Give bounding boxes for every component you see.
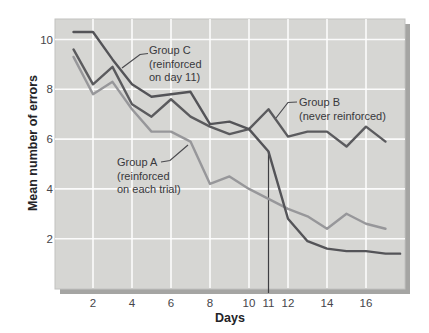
- x-axis-title: Days: [215, 311, 245, 325]
- y-tick-label: 10: [40, 34, 53, 46]
- y-tick-labels: 246810: [40, 34, 53, 245]
- chart-svg: 246810 24681011121416: [0, 0, 429, 333]
- x-tick-label: 16: [360, 297, 373, 309]
- x-tick-label: 4: [129, 297, 136, 309]
- tolman-latent-learning-figure: 246810 24681011121416 Mean number of err…: [0, 0, 429, 333]
- x-tick-label: 14: [321, 297, 334, 309]
- x-tick-label: 2: [90, 297, 96, 309]
- group-c-annotation-line: Group C: [149, 44, 202, 58]
- group-b-annotation: Group B (never reinforced): [299, 96, 386, 123]
- x-tick-label: 10: [243, 297, 256, 309]
- y-tick-label: 8: [47, 83, 53, 95]
- x-tick-labels: 24681011121416: [90, 297, 373, 309]
- x-tick-label: 6: [168, 297, 174, 309]
- group-b-annotation-line: Group B: [299, 96, 386, 110]
- group-a-annotation-line: (reinforced: [117, 170, 181, 184]
- x-tick-label: 12: [282, 297, 295, 309]
- x-tick-label: 8: [207, 297, 213, 309]
- y-axis-title: Mean number of errors: [26, 75, 40, 211]
- y-tick-label: 6: [47, 133, 53, 145]
- y-tick-label: 4: [47, 183, 54, 195]
- group-a-annotation-line: Group A: [117, 156, 181, 170]
- group-a-annotation: Group A (reinforced on each trial): [117, 156, 181, 197]
- group-c-annotation-line: on day 11): [149, 71, 202, 85]
- group-c-annotation: Group C (reinforced on day 11): [149, 44, 202, 85]
- group-b-annotation-line: (never reinforced): [299, 110, 386, 124]
- x-tick-label: 11: [263, 297, 275, 309]
- plot-panel: [55, 19, 405, 289]
- group-a-annotation-line: on each trial): [117, 183, 181, 197]
- group-c-annotation-line: (reinforced: [149, 58, 202, 72]
- y-tick-label: 2: [47, 233, 53, 245]
